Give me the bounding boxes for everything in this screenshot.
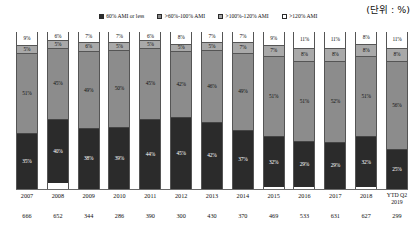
bar-segment[interactable]: 44% [140, 120, 160, 189]
bar-segment-value-label: 40% [53, 149, 62, 154]
bar-segment[interactable]: 29% [294, 142, 314, 188]
bar-segment[interactable]: 32% [264, 137, 284, 187]
x-axis-tick-line: 2014 [232, 192, 254, 199]
bar-segment[interactable]: 8% [387, 49, 407, 62]
bar-segment[interactable]: 29% [325, 143, 345, 189]
bar-segment[interactable]: 52% [325, 62, 345, 144]
bar-column[interactable]: 7%5%46%42% [201, 32, 223, 189]
legend-item[interactable]: >120% AMI [282, 14, 318, 20]
sample-count-value: 627 [355, 213, 377, 219]
bar-segment[interactable]: 9% [17, 32, 37, 46]
bar-segment[interactable]: 8% [294, 49, 314, 62]
bar-segment[interactable]: 45% [48, 49, 68, 120]
bar-column[interactable]: 11%8%56%25% [386, 32, 408, 189]
x-axis-tick-line: 2011 [139, 192, 161, 199]
bar-segment[interactable]: 7% [79, 32, 99, 43]
bar-segment[interactable]: 51% [264, 57, 284, 137]
bar-segment-value-label: 7% [209, 34, 216, 39]
bar-segment[interactable]: 39% [109, 128, 129, 189]
bar-column[interactable]: 9%7%51%32% [263, 32, 285, 189]
x-axis-tick-line: 2012 [170, 192, 192, 199]
bar-column[interactable]: 7%6%49%38% [78, 32, 100, 189]
bar-segment[interactable]: 5% [48, 41, 68, 49]
bar-segment[interactable]: 5% [109, 43, 129, 51]
bar-segment-value-label: 8% [301, 52, 308, 57]
bar-segment[interactable]: 49% [79, 52, 99, 129]
sample-count-cell: 344 [78, 213, 100, 219]
legend-item[interactable]: >100%-120% AMI [218, 14, 269, 20]
bar-column[interactable]: 7%7%49%37% [232, 32, 254, 189]
bar-segment[interactable]: 50% [109, 51, 129, 129]
bar-segment[interactable]: 7% [233, 32, 253, 43]
bar-segment-value-label: 9% [270, 36, 277, 41]
bar-segment[interactable]: 11% [325, 32, 345, 49]
bar-segment[interactable]: 49% [233, 54, 253, 131]
x-axis-tick-line: 2008 [47, 192, 69, 199]
bar-segment[interactable]: 51% [17, 54, 37, 134]
bar-column[interactable]: 8%8%51%32% [355, 32, 377, 189]
bar-segment[interactable]: 5% [202, 43, 222, 51]
bar-segment[interactable]: 7% [109, 32, 129, 43]
bar-segment[interactable]: 5% [17, 46, 37, 54]
bar-segment-value-label: 8% [363, 48, 370, 53]
bar-segment[interactable]: 8% [325, 49, 345, 62]
bar-segment[interactable]: 45% [140, 49, 160, 120]
bar-segment-value-label: 45% [146, 81, 155, 86]
bar-column[interactable]: 8%5%42%45% [170, 32, 192, 189]
x-axis-tick-line: 2017 [324, 192, 346, 199]
legend-item[interactable]: >60%-100% AMI [157, 14, 205, 20]
bar-column[interactable]: 11%8%51%29% [293, 32, 315, 189]
bar-segment[interactable]: 37% [233, 131, 253, 189]
bar-segment[interactable]: 35% [17, 134, 37, 189]
bar-segment[interactable]: 42% [202, 123, 222, 189]
bar-segment[interactable]: 40% [48, 120, 68, 183]
bar-segment[interactable]: 46% [202, 51, 222, 123]
legend-item[interactable]: 60% AMI or less [99, 14, 145, 20]
bar-segment-value-label: 5% [178, 45, 185, 50]
bar-segment[interactable]: 6% [79, 43, 99, 52]
bar-segment[interactable]: 42% [171, 52, 191, 118]
bar-segment[interactable]: 56% [387, 62, 407, 150]
bar-column[interactable]: 6%5%45%44% [139, 32, 161, 189]
bar-segment[interactable]: 5% [140, 41, 160, 49]
bar-column[interactable]: 7%5%50%39% [108, 32, 130, 189]
bar-segment[interactable]: 11% [387, 32, 407, 49]
legend-swatch-icon [282, 14, 287, 19]
sample-count-value: 344 [78, 213, 100, 219]
bar-column[interactable]: 9%5%51%35% [16, 32, 38, 189]
bar-segment[interactable]: 6% [140, 32, 160, 41]
legend-swatch-icon [157, 14, 162, 19]
bar-segment-value-label: 5% [209, 44, 216, 49]
bar-segment[interactable]: 8% [356, 45, 376, 58]
bar-column[interactable]: 6%5%45%40% [47, 32, 69, 189]
bar-segment[interactable]: 51% [294, 62, 314, 142]
sample-count-cell: 300 [170, 213, 192, 219]
bar-segment-value-label: 44% [146, 152, 155, 157]
x-axis-tick-label: 2007 [16, 192, 38, 205]
sample-count-value: 666 [16, 213, 38, 219]
bar-segment[interactable]: 45% [171, 118, 191, 189]
sample-count-cell: 533 [293, 213, 315, 219]
bar-segment[interactable]: 8% [171, 32, 191, 45]
sample-count-cell: 390 [139, 213, 161, 219]
bar-segment[interactable]: 7% [264, 46, 284, 57]
bar-segment[interactable]: 25% [387, 150, 407, 189]
bar-segment-value-label: 49% [238, 89, 247, 94]
bar-segment[interactable]: 6% [48, 32, 68, 41]
x-axis-tick-label: 2013 [201, 192, 223, 205]
bar-segment[interactable]: 9% [264, 32, 284, 46]
bar-segment-value-label: 32% [269, 160, 278, 165]
bar-segment-value-label: 38% [84, 156, 93, 161]
bar-segment[interactable]: 32% [356, 137, 376, 187]
sample-count-value: 430 [201, 213, 223, 219]
bar-segment[interactable]: 51% [356, 57, 376, 137]
bar-segment[interactable]: 38% [79, 129, 99, 189]
bar-segment-value-label: 11% [331, 37, 340, 42]
bar-column[interactable]: 11%8%52%29% [324, 32, 346, 189]
bar-segment[interactable]: 7% [202, 32, 222, 43]
bar-segment[interactable]: 5% [171, 45, 191, 53]
sample-count-value: 299 [386, 213, 408, 219]
bar-segment[interactable]: 8% [356, 32, 376, 45]
bar-segment[interactable]: 7% [233, 43, 253, 54]
bar-segment[interactable]: 11% [294, 32, 314, 49]
